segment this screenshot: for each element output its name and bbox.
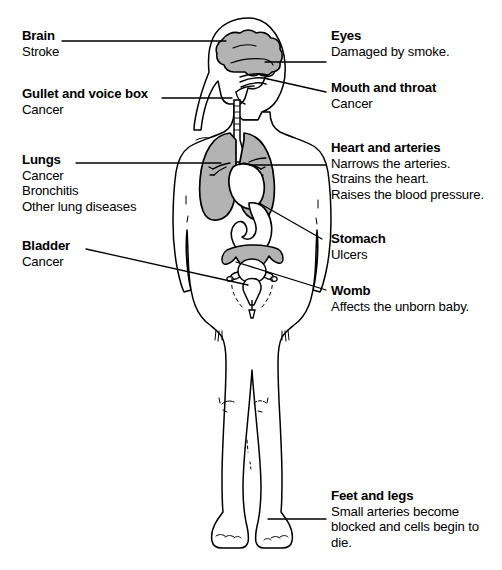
callout-womb-title: Womb (331, 283, 469, 299)
callout-stomach-title: Stomach (331, 231, 386, 247)
callout-lungs-title: Lungs (22, 152, 136, 168)
callout-heart: Heart and arteries Narrows the arteries.… (331, 140, 484, 202)
callout-eyes-title: Eyes (331, 28, 449, 44)
callout-mouth: Mouth and throat Cancer (331, 80, 436, 111)
callout-brain-title: Brain (22, 28, 59, 44)
callout-womb: Womb Affects the unborn baby. (331, 283, 469, 314)
callout-lungs-line-2: Other lung diseases (22, 199, 136, 215)
callout-feet-title: Feet and legs (331, 488, 499, 504)
callout-gullet-line-0: Cancer (22, 102, 148, 118)
callout-eyes-line-0: Damaged by smoke. (331, 44, 449, 60)
callout-stomach-line-0: Ulcers (331, 247, 386, 263)
callout-heart-line-1: Strains the heart. (331, 171, 484, 187)
callout-brain: Brain Stroke (22, 28, 59, 59)
callout-feet-line-0: Small arteries become blocked and cells … (331, 504, 499, 551)
callout-gullet: Gullet and voice box Cancer (22, 86, 148, 117)
callout-lungs: Lungs Cancer Bronchitis Other lung disea… (22, 152, 136, 214)
callout-feet: Feet and legs Small arteries become bloc… (331, 488, 499, 550)
callout-womb-line-0: Affects the unborn baby. (331, 299, 469, 315)
callout-mouth-title: Mouth and throat (331, 80, 436, 96)
callout-heart-title: Heart and arteries (331, 140, 484, 156)
callout-lungs-line-1: Bronchitis (22, 183, 136, 199)
callout-stomach: Stomach Ulcers (331, 231, 386, 262)
callout-bladder: Bladder Cancer (22, 238, 70, 269)
smoking-effects-diagram: Brain Stroke Gullet and voice box Cancer… (0, 0, 502, 570)
callout-bladder-title: Bladder (22, 238, 70, 254)
callout-brain-line-0: Stroke (22, 44, 59, 60)
callout-eyes: Eyes Damaged by smoke. (331, 28, 449, 59)
callout-lungs-line-0: Cancer (22, 168, 136, 184)
callout-gullet-title: Gullet and voice box (22, 86, 148, 102)
callout-mouth-line-0: Cancer (331, 96, 436, 112)
callout-heart-line-2: Raises the blood pressure. (331, 187, 484, 203)
callout-heart-line-0: Narrows the arteries. (331, 156, 484, 172)
callout-bladder-line-0: Cancer (22, 254, 70, 270)
